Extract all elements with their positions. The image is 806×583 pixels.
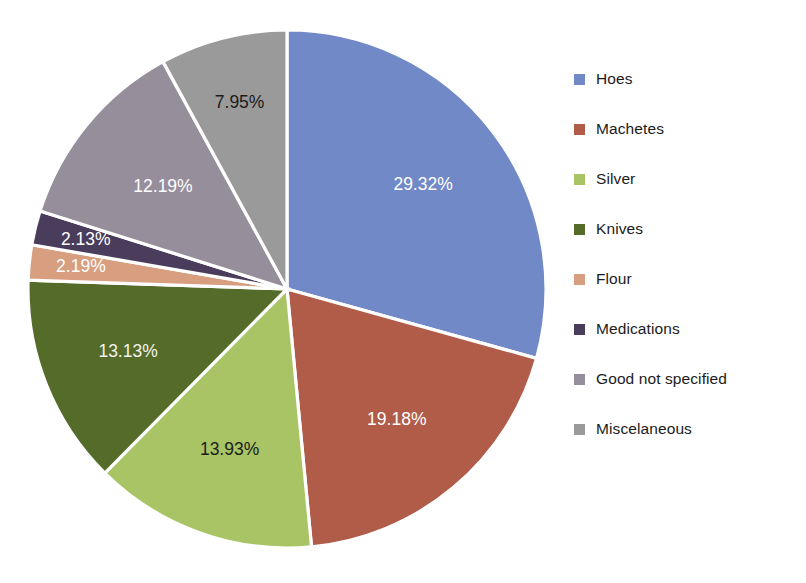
pie-slice-data-label: 7.95%: [215, 92, 265, 112]
legend-item[interactable]: Miscelaneous: [574, 404, 800, 454]
pie-chart-svg: 29.32%19.18%13.93%13.13%2.19%2.13%12.19%…: [0, 0, 560, 583]
legend-item-label: Knives: [596, 220, 643, 238]
pie-chart-page: 29.32%19.18%13.93%13.13%2.19%2.13%12.19%…: [0, 0, 806, 583]
legend-item-label: Medications: [596, 320, 680, 338]
legend-item[interactable]: Machetes: [574, 104, 800, 154]
pie-slices-group: [28, 30, 546, 548]
legend-item[interactable]: Good not specified: [574, 354, 800, 404]
pie-chart-plot-area: 29.32%19.18%13.93%13.13%2.19%2.13%12.19%…: [0, 0, 560, 583]
pie-slice-data-label: 13.93%: [200, 439, 259, 459]
legend-item-label: Machetes: [596, 120, 664, 138]
chart-legend: HoesMachetesSilverKnivesFlourMedications…: [574, 54, 800, 454]
legend-color-swatch: [574, 274, 585, 285]
pie-slice-data-label: 19.18%: [367, 409, 426, 429]
legend-item[interactable]: Knives: [574, 204, 800, 254]
legend-color-swatch: [574, 374, 585, 385]
legend-item-label: Silver: [596, 170, 635, 188]
legend-item[interactable]: Silver: [574, 154, 800, 204]
legend-item-label: Miscelaneous: [596, 420, 692, 438]
legend-item-label: Flour: [596, 270, 632, 288]
pie-slice-data-label: 2.13%: [61, 229, 111, 249]
pie-slice-data-label: 2.19%: [56, 256, 106, 276]
legend-color-swatch: [574, 174, 585, 185]
legend-item[interactable]: Hoes: [574, 54, 800, 104]
legend-color-swatch: [574, 74, 585, 85]
legend-item-label: Hoes: [596, 70, 633, 88]
legend-color-swatch: [574, 224, 585, 235]
legend-item[interactable]: Medications: [574, 304, 800, 354]
legend-item-label: Good not specified: [596, 370, 727, 388]
legend-color-swatch: [574, 324, 585, 335]
legend-color-swatch: [574, 424, 585, 435]
legend-item[interactable]: Flour: [574, 254, 800, 304]
pie-slice-data-label: 29.32%: [393, 174, 452, 194]
pie-slice-data-label: 12.19%: [133, 176, 192, 196]
pie-slice-data-label: 13.13%: [98, 341, 157, 361]
legend-color-swatch: [574, 124, 585, 135]
